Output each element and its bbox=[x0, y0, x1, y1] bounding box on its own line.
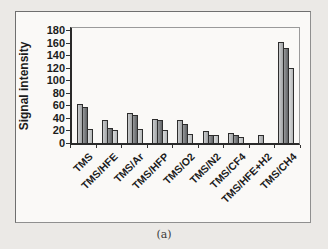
x-tick-mark bbox=[96, 145, 97, 148]
y-tick-mark bbox=[66, 43, 70, 44]
y-tick-label: 120 bbox=[29, 62, 65, 75]
bar-group bbox=[274, 28, 299, 143]
y-tick-mark bbox=[66, 30, 70, 31]
y-tick-label: 140 bbox=[29, 49, 65, 62]
bar-group bbox=[249, 28, 274, 143]
y-tick-mark bbox=[66, 118, 70, 119]
y-tick-label: 40 bbox=[29, 112, 65, 125]
y-tick-label: 20 bbox=[29, 124, 65, 137]
bar-group bbox=[223, 28, 248, 143]
y-tick-mark bbox=[66, 93, 70, 94]
bar-group bbox=[173, 28, 198, 143]
y-tick-mark bbox=[66, 130, 70, 131]
x-tick-mark bbox=[274, 145, 275, 148]
figure-page: Signal intensity 02040608010012014016018… bbox=[0, 0, 328, 249]
y-tick-mark bbox=[66, 80, 70, 81]
y-tick-label: 100 bbox=[29, 74, 65, 87]
y-tick-mark bbox=[66, 105, 70, 106]
bar bbox=[238, 137, 244, 143]
bar-group bbox=[72, 28, 97, 143]
y-tick-mark bbox=[66, 68, 70, 69]
bar bbox=[187, 134, 193, 143]
bar bbox=[87, 129, 93, 143]
bar bbox=[258, 135, 264, 143]
y-tick-label: 80 bbox=[29, 87, 65, 100]
x-tick-mark bbox=[300, 145, 301, 148]
bar bbox=[137, 129, 143, 143]
x-tick-mark bbox=[147, 145, 148, 148]
bar-group bbox=[122, 28, 147, 143]
x-tick-mark bbox=[172, 145, 173, 148]
y-tick-mark bbox=[66, 143, 70, 144]
y-tick-label: 0 bbox=[29, 137, 65, 150]
plot-area bbox=[70, 27, 300, 145]
x-tick-mark bbox=[249, 145, 250, 148]
x-tick-mark bbox=[70, 145, 71, 148]
figure-caption: (a) bbox=[0, 228, 328, 241]
y-tick-label: 160 bbox=[29, 37, 65, 50]
bar-group bbox=[97, 28, 122, 143]
y-tick-label: 180 bbox=[29, 24, 65, 37]
x-tick-mark bbox=[223, 145, 224, 148]
chart-frame: Signal intensity 02040608010012014016018… bbox=[15, 11, 311, 223]
y-tick-label: 60 bbox=[29, 99, 65, 112]
bar-group bbox=[198, 28, 223, 143]
bar bbox=[112, 130, 118, 143]
bar bbox=[162, 130, 168, 143]
bar bbox=[288, 68, 294, 143]
bar-group bbox=[148, 28, 173, 143]
y-tick-mark bbox=[66, 55, 70, 56]
x-tick-mark bbox=[121, 145, 122, 148]
x-tick-mark bbox=[198, 145, 199, 148]
bar bbox=[213, 135, 219, 143]
